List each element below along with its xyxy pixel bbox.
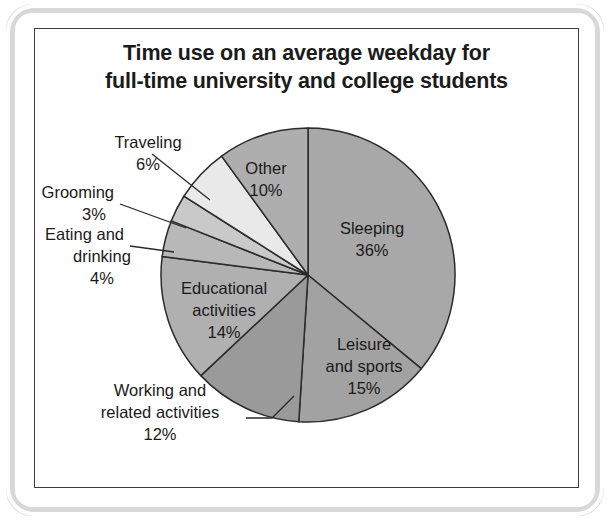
slice-label-working-line-2: related activities [101,403,219,421]
slice-label-leisure-line-1: Leisure [337,335,391,353]
slice-label-traveling: Traveling 6% [114,133,181,173]
slice-label-eating-line-2: drinking [73,247,131,265]
slice-label-educational-pct: 14% [207,323,240,341]
slice-label-eating-and-drinking: Eating and drinking 4% [45,225,131,287]
slice-label-sleeping-pct: 36% [355,241,388,259]
slice-label-working-line-1: Working and [114,381,206,399]
pie-slices-group [161,128,455,422]
slice-label-eating-line-1: Eating and [45,225,124,243]
slice-label-sleeping-name: Sleeping [340,219,404,237]
pie-chart: Sleeping 36% Leisure and sports 15% Educ… [34,28,579,488]
slice-label-working-and-related-activities: Working and related activities 12% [101,381,219,443]
scanned-page: Time use on an average weekday for full-… [0,0,614,522]
slice-label-eating-pct: 4% [90,269,114,287]
slice-label-traveling-name: Traveling [114,133,181,151]
pie-chart-svg: Sleeping 36% Leisure and sports 15% Educ… [34,28,579,488]
slice-label-working-pct: 12% [143,425,176,443]
slice-label-other-name: Other [245,159,287,177]
slice-label-grooming-pct: 3% [82,205,106,223]
slice-label-other-pct: 10% [249,181,282,199]
slice-label-leisure-line-2: and sports [325,357,402,375]
slice-label-grooming: Grooming 3% [42,183,114,223]
slice-label-leisure-pct: 15% [347,379,380,397]
slice-label-grooming-name: Grooming [42,183,114,201]
slice-label-traveling-pct: 6% [136,155,160,173]
slice-label-educational-line-2: activities [192,301,255,319]
slice-label-educational-line-1: Educational [181,279,267,297]
